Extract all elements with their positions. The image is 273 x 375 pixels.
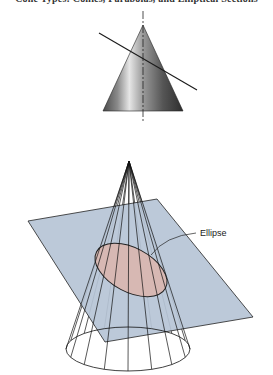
ellipse-label: Ellipse [200,228,227,238]
conic-section-diagram: Ellipse [0,0,273,375]
lower-cone-figure: Ellipse [28,161,253,371]
upper-cone-figure [99,11,197,121]
